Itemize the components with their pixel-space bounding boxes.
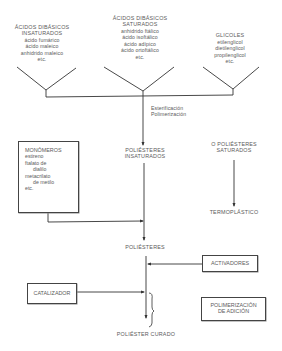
catalizador-box: CATALIZADOR: [27, 283, 77, 304]
group-acidos-saturados-title: ÁCIDOS DIBÁSICOS SATURADOS: [100, 15, 180, 28]
list-item: etc.: [100, 54, 180, 60]
title-line: SATURADOS: [100, 21, 180, 27]
group-glicoles-items: etilenglicol dietilenglicol propilenglic…: [200, 39, 260, 65]
process-label: Esterificación Polimerización: [151, 105, 186, 118]
polimerizacion-adicion-box: POLIMERIZACIÓN DE ADICIÓN: [201, 297, 266, 321]
group-acidos-saturados-items: anhidrido ftálico ácido isoftálico ácido…: [100, 28, 180, 60]
group-glicoles-title: GLICOLES: [205, 32, 255, 38]
monomeros-box: MONÓMEROS estireno ftalato de dialilo me…: [18, 141, 79, 213]
activadores-box: ACTIVADORES: [202, 255, 258, 272]
activadores-label: ACTIVADORES: [203, 260, 257, 266]
list-item: etc.: [200, 58, 260, 64]
title-line: GLICOLES: [205, 32, 255, 38]
group-acidos-insaturados-title: ÁCIDOS DIBÁSICOS INSATURADOS: [2, 24, 82, 37]
catalizador-label: CATALIZADOR: [28, 290, 76, 296]
title-line: INSATURADOS: [2, 30, 82, 36]
polimerizacion-adicion-label: POLIMERIZACIÓN DE ADICIÓN: [202, 302, 265, 315]
poliesteres-insaturados-label: POLIÉSTERES INSATURADOS: [115, 147, 175, 160]
label-line: DE ADICIÓN: [202, 308, 265, 314]
poliesteres-saturados-label: O POLIÉSTERES SATURADOS: [204, 141, 264, 154]
process-line: Polimerización: [151, 111, 186, 117]
list-item: etc.: [2, 56, 82, 62]
termoplastico-label: TERMOPLÁSTICO: [204, 209, 264, 215]
label-line: SATURADOS: [204, 147, 264, 153]
group-acidos-insaturados-items: ácido fumárico ácido maleico anhidrido m…: [2, 37, 82, 63]
poliesteres-label: POLIÉSTERES: [120, 244, 170, 250]
label-line: INSATURADOS: [115, 153, 175, 159]
poliester-curado-label: POLIÉSTER CURADO: [106, 331, 186, 337]
list-item: etc.: [25, 185, 62, 191]
